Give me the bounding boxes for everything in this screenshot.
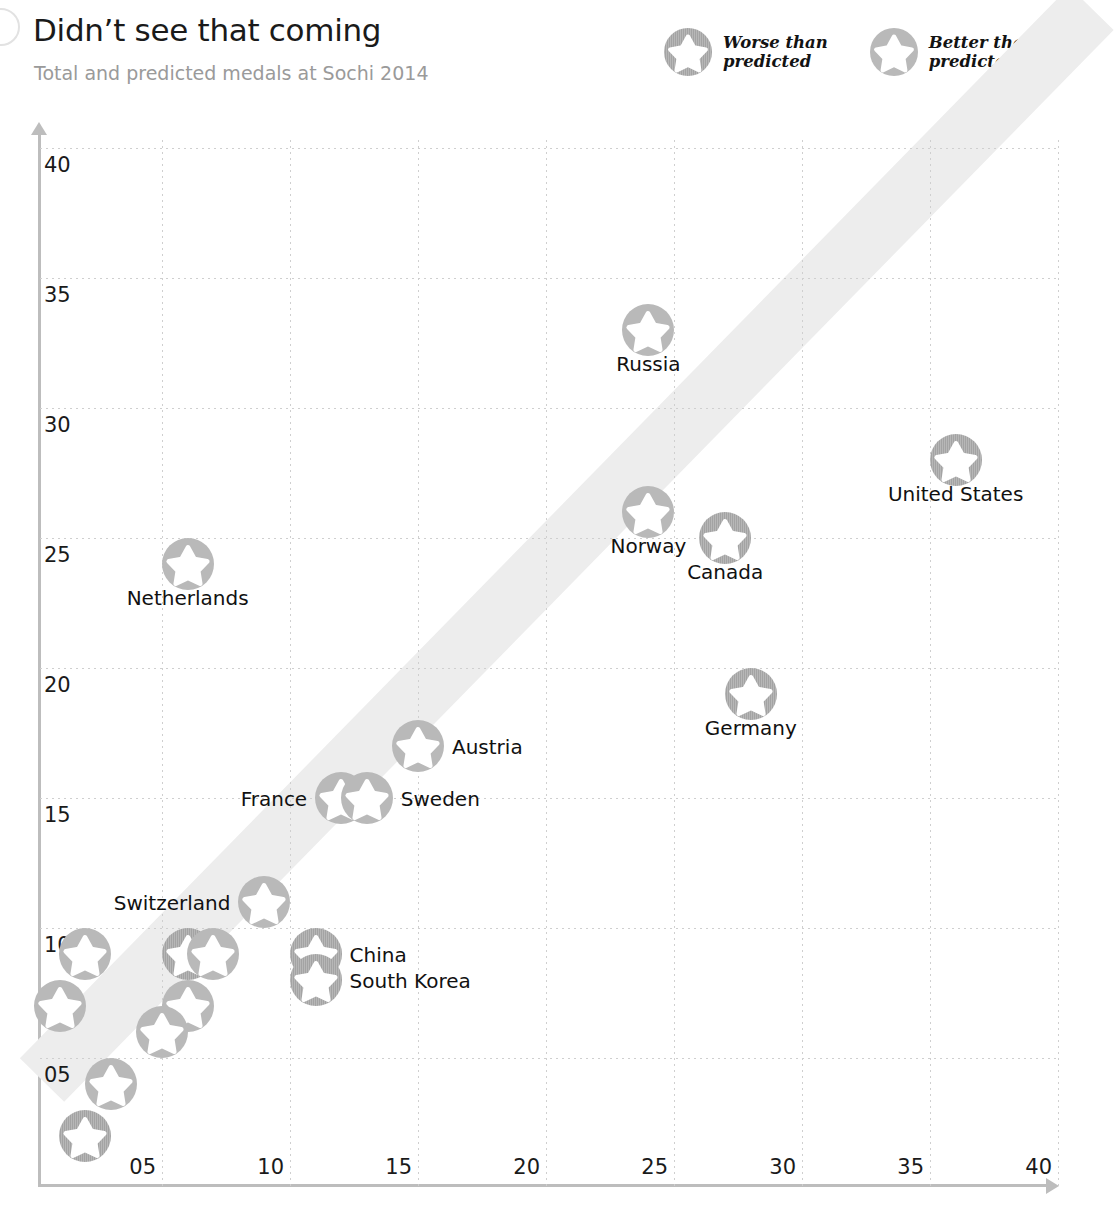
y-axis-tick-label: 30 [44, 413, 71, 437]
data-point-label: Austria [452, 735, 523, 759]
y-axis-tick-label: 40 [44, 153, 71, 177]
data-point-united-states[interactable] [930, 434, 982, 486]
data-point[interactable] [136, 1006, 188, 1058]
star-marker-icon [622, 304, 674, 356]
star-marker-icon [59, 928, 111, 980]
data-point-label: United States [756, 482, 1118, 506]
data-point-south-korea[interactable] [290, 954, 342, 1006]
data-point-germany[interactable] [725, 668, 777, 720]
star-marker-icon [238, 876, 290, 928]
data-point-label: Canada [525, 560, 925, 584]
x-axis-tick-label: 30 [748, 1155, 796, 1179]
data-point-russia[interactable] [622, 304, 674, 356]
gridline-vertical [802, 140, 803, 1186]
gridline-vertical [930, 140, 931, 1186]
star-marker-icon [59, 1110, 111, 1162]
data-point-label: Norway [448, 534, 848, 558]
star-marker-icon [622, 486, 674, 538]
gridline-horizontal [40, 798, 1058, 799]
gridline-horizontal [40, 148, 1058, 149]
y-axis-tick-label: 15 [44, 803, 71, 827]
data-point-label: South Korea [350, 969, 471, 993]
data-point-label: Germany [551, 716, 951, 740]
gridline-vertical [1058, 140, 1059, 1186]
data-point-label: Russia [448, 352, 848, 376]
star-marker-icon [187, 928, 239, 980]
x-axis-tick-label: 20 [492, 1155, 540, 1179]
data-point[interactable] [34, 980, 86, 1032]
x-axis-tick-label: 05 [108, 1155, 156, 1179]
data-point-label: China [350, 943, 407, 967]
star-marker-icon [162, 538, 214, 590]
star-marker-icon [699, 512, 751, 564]
x-axis-tick-label: 10 [236, 1155, 284, 1179]
gridline-vertical [546, 140, 547, 1186]
data-point-label: France [241, 787, 308, 811]
data-point[interactable] [59, 928, 111, 980]
gridline-horizontal [40, 668, 1058, 669]
x-axis-tick-label: 25 [620, 1155, 668, 1179]
data-point-label: Netherlands [0, 586, 388, 610]
y-axis-tick-label: 05 [44, 1063, 71, 1087]
gridline-horizontal [40, 278, 1058, 279]
star-marker-icon [930, 434, 982, 486]
data-point[interactable] [59, 1110, 111, 1162]
gridline-vertical [290, 140, 291, 1186]
star-marker-icon [34, 980, 86, 1032]
data-point-switzerland[interactable] [238, 876, 290, 928]
data-point-austria[interactable] [392, 720, 444, 772]
y-axis-tick-label: 35 [44, 283, 71, 307]
gridline-vertical [674, 140, 675, 1186]
y-axis-tick-label: 20 [44, 673, 71, 697]
star-marker-icon [85, 1058, 137, 1110]
star-marker-icon [290, 954, 342, 1006]
x-axis-tick-label: 35 [876, 1155, 924, 1179]
gridline-horizontal [40, 1058, 1058, 1059]
star-marker-icon [392, 720, 444, 772]
data-point[interactable] [85, 1058, 137, 1110]
gridline-horizontal [40, 408, 1058, 409]
data-point-label: Switzerland [114, 891, 231, 915]
star-marker-icon [341, 772, 393, 824]
star-marker-icon [136, 1006, 188, 1058]
data-point-canada[interactable] [699, 512, 751, 564]
data-point-sweden[interactable] [341, 772, 393, 824]
x-axis-tick-label: 15 [364, 1155, 412, 1179]
gridline-vertical [418, 140, 419, 1186]
y-axis-tick-label: 25 [44, 543, 71, 567]
data-point-norway[interactable] [622, 486, 674, 538]
data-point-label: Sweden [401, 787, 480, 811]
x-axis-tick-label: 40 [1004, 1155, 1052, 1179]
data-point-netherlands[interactable] [162, 538, 214, 590]
star-marker-icon [725, 668, 777, 720]
data-point[interactable] [187, 928, 239, 980]
